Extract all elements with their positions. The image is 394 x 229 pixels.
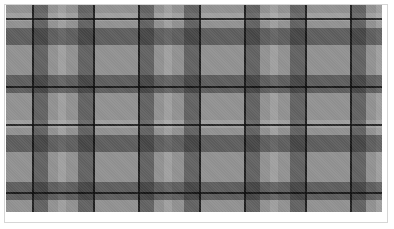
plaid-pattern-image xyxy=(6,5,382,212)
weave-texture xyxy=(6,5,382,212)
